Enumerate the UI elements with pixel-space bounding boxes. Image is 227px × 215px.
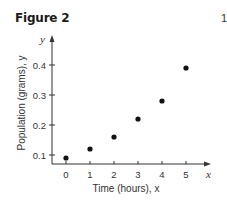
data-point bbox=[183, 65, 188, 70]
y-axis-title: Population (grams), y bbox=[16, 55, 27, 150]
y-axis-variable: y bbox=[39, 33, 45, 45]
x-axis-title: Time (hours), x bbox=[93, 183, 160, 194]
x-tick-label: 2 bbox=[111, 169, 116, 180]
y-tick-label: 0.3 bbox=[33, 90, 46, 101]
x-tick-label: 5 bbox=[183, 169, 188, 180]
data-point bbox=[63, 155, 68, 160]
y-axis-arrow-icon bbox=[50, 35, 55, 42]
data-point bbox=[159, 98, 164, 103]
x-tick-label: 4 bbox=[159, 169, 164, 180]
x-axis-arrow-icon bbox=[204, 162, 211, 167]
x-tick-label: 0 bbox=[63, 169, 68, 180]
y-tick-label: 0.1 bbox=[33, 150, 46, 161]
x-tick-label: 3 bbox=[135, 169, 140, 180]
data-point bbox=[87, 146, 92, 151]
data-points bbox=[63, 65, 188, 160]
data-point bbox=[111, 134, 116, 139]
x-tick-label: 1 bbox=[87, 169, 92, 180]
y-tick-label: 0.4 bbox=[33, 60, 46, 71]
x-axis-variable: x bbox=[205, 168, 211, 180]
scatter-chart: 0.10.20.30.4 012345 y x Time (hours), x … bbox=[0, 0, 227, 215]
data-point bbox=[135, 116, 140, 121]
y-tick-label: 0.2 bbox=[33, 120, 46, 131]
